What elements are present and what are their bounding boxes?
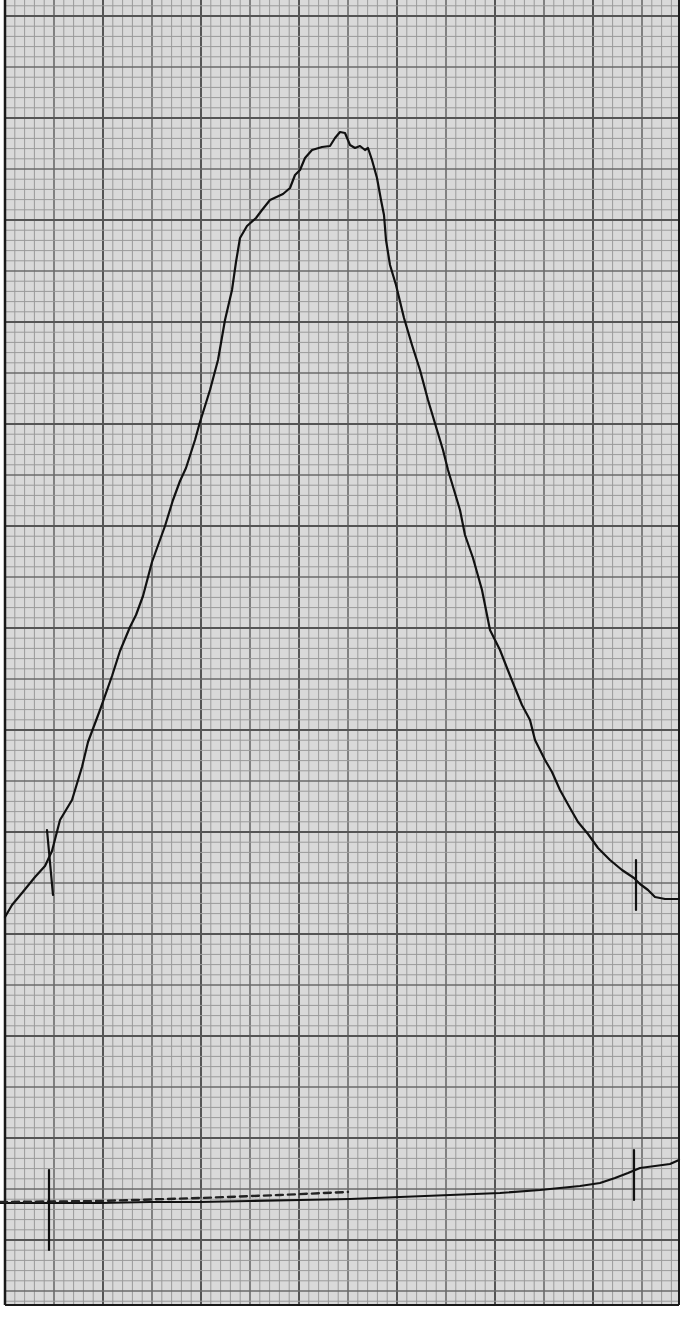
graph-paper bbox=[5, 0, 679, 1305]
strip-chart bbox=[0, 0, 691, 1330]
paper-surface bbox=[5, 0, 679, 1305]
